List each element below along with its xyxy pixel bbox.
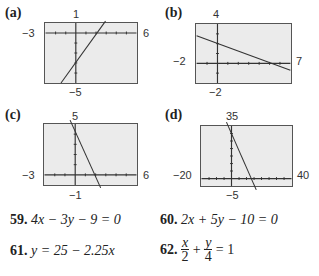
tick-right-c: 6 xyxy=(143,170,149,181)
tick-left-d: −20 xyxy=(173,170,192,181)
tick-top-d: 35 xyxy=(226,111,238,122)
exercise-59-number: 59. xyxy=(10,212,28,227)
panel-label-d: (d) xyxy=(165,107,182,123)
fraction-denominator: 4 xyxy=(204,250,212,263)
exercise-59-equation: 4x − 3y − 9 = 0 xyxy=(31,212,121,227)
graph-d xyxy=(200,125,293,187)
graph-a xyxy=(44,22,138,84)
exercise-61-equation: y = 25 − 2.25x xyxy=(31,243,115,258)
fraction-numerator: y xyxy=(204,236,212,250)
fraction-numerator: x xyxy=(181,236,189,250)
tick-left-a: −3 xyxy=(22,28,35,39)
panel-label-b: (b) xyxy=(165,5,182,21)
tick-bottom-c: −1 xyxy=(69,190,82,201)
panel-label-c: (c) xyxy=(5,107,21,123)
equation-rhs: = 1 xyxy=(216,242,234,257)
graph-c xyxy=(43,123,138,186)
graph-a-plot xyxy=(45,23,137,83)
panel-label-a: (a) xyxy=(5,5,21,21)
exercise-61: 61. y = 25 − 2.25x xyxy=(10,243,115,259)
exercise-62-number: 62. xyxy=(160,242,178,257)
tick-right-a: 6 xyxy=(143,28,149,39)
graph-b-plot xyxy=(196,24,291,83)
tick-bottom-a: −5 xyxy=(69,87,82,98)
graph-b xyxy=(195,23,292,84)
tick-right-d: 40 xyxy=(297,170,309,181)
tick-left-c: −3 xyxy=(22,170,35,181)
tick-left-b: −2 xyxy=(173,56,186,67)
fraction-x-over-2: x 2 xyxy=(181,236,189,263)
graph-d-plot xyxy=(201,126,292,186)
exercise-61-number: 61. xyxy=(10,243,28,258)
exercise-62: 62. x 2 + y 4 = 1 xyxy=(160,236,234,263)
tick-top-a: 1 xyxy=(73,9,79,20)
tick-bottom-b: −2 xyxy=(209,87,222,98)
exercise-60-equation: 2x + 5y − 10 = 0 xyxy=(181,212,278,227)
fraction-y-over-4: y 4 xyxy=(204,236,212,263)
fraction-denominator: 2 xyxy=(181,250,189,263)
plus-sign: + xyxy=(193,242,201,257)
exercise-59: 59. 4x − 3y − 9 = 0 xyxy=(10,212,121,228)
exercise-60: 60. 2x + 5y − 10 = 0 xyxy=(160,212,278,228)
tick-top-b: 4 xyxy=(213,9,219,20)
graph-c-plot xyxy=(44,124,137,185)
tick-top-c: 5 xyxy=(72,111,78,122)
exercise-60-number: 60. xyxy=(160,212,178,227)
tick-right-b: 7 xyxy=(296,56,302,67)
tick-bottom-d: −5 xyxy=(226,190,239,201)
